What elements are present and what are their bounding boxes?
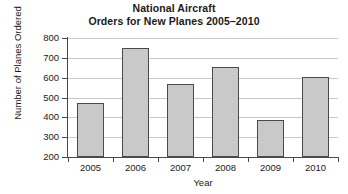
bar-2009[interactable] [257,120,284,157]
chart-title: National Aircraft Orders for New Planes … [0,2,348,27]
y-tick-label-800: 800 [43,33,59,43]
x-tick-label-2007: 2007 [158,163,203,173]
x-tick-5 [293,158,294,162]
bar-series [68,38,338,157]
x-tick-1 [113,158,114,162]
chart-title-line-1: National Aircraft [0,2,348,15]
chart-title-line-2: Orders for New Planes 2005–2010 [0,15,348,28]
y-tick-label-500: 500 [43,93,59,103]
bar-slot [158,38,203,157]
y-tick-label-400: 400 [43,112,59,122]
bar-2005[interactable] [77,103,104,157]
bar-slot [293,38,338,157]
bar-chart: National Aircraft Orders for New Planes … [0,0,348,194]
bar-slot [203,38,248,157]
y-tick-label-600: 600 [43,73,59,83]
y-axis-title: Number of Planes Ordered [13,0,23,128]
x-tick-0 [68,158,69,162]
x-tick-label-2010: 2010 [293,163,338,173]
x-tick-4 [248,158,249,162]
bar-slot [68,38,113,157]
y-tick-label-300: 300 [43,132,59,142]
bar-2007[interactable] [167,84,194,157]
x-tick-6 [338,158,339,162]
x-tick-3 [203,158,204,162]
bar-2010[interactable] [302,77,329,157]
y-tick-label-700: 700 [43,53,59,63]
bar-2008[interactable] [212,67,239,157]
x-axis-title: Year [68,178,338,188]
x-tick-label-2006: 2006 [113,163,158,173]
bar-2006[interactable] [122,48,149,157]
x-tick-2 [158,158,159,162]
x-tick-label-2009: 2009 [248,163,293,173]
x-tick-label-2008: 2008 [203,163,248,173]
x-tick-label-2005: 2005 [68,163,113,173]
y-tick-label-200: 200 [43,152,59,162]
bar-slot [113,38,158,157]
bar-slot [248,38,293,157]
x-axis-labels: 200520062007200820092010 [68,163,338,173]
